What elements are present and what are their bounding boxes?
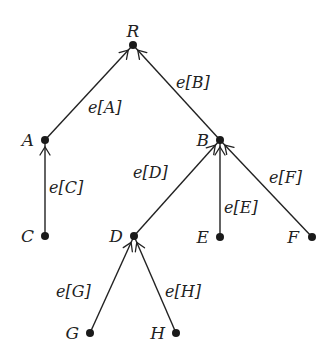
tree-svg: e[A]e[B]e[C]e[D]e[E]e[F]e[G]e[H]RABCDEFG… xyxy=(0,0,331,362)
node-c xyxy=(41,232,49,240)
node-d xyxy=(130,232,138,240)
edge-label-d: e[D] xyxy=(133,163,169,182)
edge-label-h: e[H] xyxy=(165,282,202,301)
node-b xyxy=(216,136,224,144)
node-h xyxy=(172,329,180,337)
edge-line xyxy=(220,140,312,237)
node-f xyxy=(308,233,316,241)
edge-label-c: e[C] xyxy=(49,178,84,197)
edge-label-g: e[G] xyxy=(56,282,91,301)
node-label-g: G xyxy=(65,323,79,343)
edge-d-b xyxy=(134,140,220,236)
node-label-r: R xyxy=(126,21,140,41)
node-label-d: D xyxy=(108,226,123,246)
edge-label-f: e[F] xyxy=(269,168,303,187)
node-g xyxy=(86,329,94,337)
node-a xyxy=(41,136,49,144)
edge-line xyxy=(134,140,220,236)
edge-g-d xyxy=(90,236,134,333)
node-label-e: E xyxy=(196,227,210,247)
edge-label-b: e[B] xyxy=(176,73,210,92)
edge-line xyxy=(90,236,134,333)
node-label-b: B xyxy=(196,130,210,150)
edge-f-b xyxy=(220,140,312,237)
edge-label-e: e[E] xyxy=(224,198,258,217)
node-e xyxy=(216,233,224,241)
node-label-c: C xyxy=(21,226,34,246)
tree-diagram: e[A]e[B]e[C]e[D]e[E]e[F]e[G]e[H]RABCDEFG… xyxy=(0,0,331,362)
node-label-f: F xyxy=(286,227,300,247)
edge-a-r xyxy=(45,45,133,140)
edge-label-a: e[A] xyxy=(88,98,122,117)
edge-e-b xyxy=(215,140,225,237)
edge-line xyxy=(133,45,220,140)
node-r xyxy=(129,41,137,49)
edge-line xyxy=(45,45,133,140)
node-label-h: H xyxy=(149,323,166,343)
node-label-a: A xyxy=(20,130,34,150)
edge-b-r xyxy=(133,45,220,140)
